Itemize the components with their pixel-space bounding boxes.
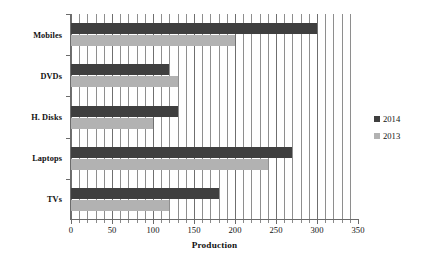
x-axis-tick: [112, 220, 113, 224]
category-label-h-disks: H. Disks: [0, 113, 62, 122]
gridline: [350, 14, 351, 220]
x-axis-minor-tick: [342, 220, 343, 223]
bar-tvs-2013: [71, 200, 169, 211]
x-tick-label-300: 300: [311, 225, 324, 235]
x-axis-minor-tick: [325, 220, 326, 223]
bar-mobiles-2013: [71, 35, 235, 46]
x-axis-tick: [71, 220, 72, 224]
y-axis-tick: [66, 55, 71, 56]
gridline: [325, 14, 326, 220]
x-axis-minor-tick: [202, 220, 203, 223]
gridline: [235, 14, 236, 220]
gridline: [333, 14, 334, 220]
gridline: [284, 14, 285, 220]
x-axis-tick: [194, 220, 195, 224]
bar-laptops-2014: [71, 147, 292, 158]
bar-chart: MobilesDVDsH. DisksLaptopsTVs 0501001502…: [0, 0, 432, 264]
x-axis-tick: [358, 220, 359, 224]
x-axis-title: Production: [71, 240, 358, 250]
bar-h-disks-2014: [71, 106, 178, 117]
gridline: [276, 14, 277, 220]
x-tick-label-350: 350: [352, 225, 365, 235]
gridline: [317, 14, 318, 220]
x-axis-minor-tick: [301, 220, 302, 223]
x-axis-minor-tick: [79, 220, 80, 223]
bar-h-disks-2013: [71, 118, 153, 129]
gridline: [292, 14, 293, 220]
x-axis-minor-tick: [178, 220, 179, 223]
x-axis-minor-tick: [104, 220, 105, 223]
gridline: [342, 14, 343, 220]
x-tick-label-50: 50: [108, 225, 117, 235]
x-tick-label-0: 0: [69, 225, 73, 235]
x-axis-minor-tick: [260, 220, 261, 223]
bar-mobiles-2014: [71, 23, 317, 34]
x-axis-minor-tick: [186, 220, 187, 223]
gridline: [268, 14, 269, 220]
x-axis-minor-tick: [251, 220, 252, 223]
x-axis-minor-tick: [243, 220, 244, 223]
legend-item-2014[interactable]: 2014: [374, 112, 400, 126]
x-tick-label-250: 250: [270, 225, 283, 235]
x-axis-minor-tick: [219, 220, 220, 223]
x-axis-line: [70, 219, 359, 220]
legend-label-2014: 2014: [383, 114, 400, 124]
x-axis-minor-tick: [120, 220, 121, 223]
y-axis-tick: [66, 138, 71, 139]
x-tick-label-150: 150: [188, 225, 201, 235]
x-axis-tick: [317, 220, 318, 224]
x-axis-minor-tick: [145, 220, 146, 223]
y-axis-tick: [66, 96, 71, 97]
x-axis-minor-tick: [309, 220, 310, 223]
gridline: [243, 14, 244, 220]
x-axis-tick: [276, 220, 277, 224]
category-label-mobiles: Mobiles: [0, 30, 62, 39]
x-axis-minor-tick: [137, 220, 138, 223]
y-axis-tick: [66, 14, 71, 15]
bar-tvs-2014: [71, 188, 219, 199]
x-axis-minor-tick: [333, 220, 334, 223]
x-axis-minor-tick: [227, 220, 228, 223]
legend-item-2013[interactable]: 2013: [374, 129, 400, 143]
gridline: [251, 14, 252, 220]
bar-dvds-2014: [71, 64, 169, 75]
category-axis: MobilesDVDsH. DisksLaptopsTVs: [0, 14, 66, 220]
gridline: [309, 14, 310, 220]
chart-legend: 2014 2013: [374, 112, 400, 146]
x-axis-minor-tick: [87, 220, 88, 223]
y-axis-tick: [66, 179, 71, 180]
x-axis-minor-tick: [128, 220, 129, 223]
x-axis-minor-tick: [268, 220, 269, 223]
x-tick-label-200: 200: [229, 225, 242, 235]
x-axis-tick: [235, 220, 236, 224]
x-axis-tick: [153, 220, 154, 224]
x-axis-minor-tick: [96, 220, 97, 223]
x-axis-minor-tick: [292, 220, 293, 223]
x-axis-minor-tick: [284, 220, 285, 223]
gridline: [260, 14, 261, 220]
category-label-laptops: Laptops: [0, 154, 62, 163]
x-axis-minor-tick: [161, 220, 162, 223]
square-marker-dark-icon: [374, 116, 380, 122]
x-axis-minor-tick: [350, 220, 351, 223]
legend-label-2013: 2013: [383, 131, 400, 141]
bar-dvds-2013: [71, 76, 178, 87]
x-axis-minor-tick: [169, 220, 170, 223]
square-marker-light-icon: [374, 133, 380, 139]
category-label-tvs: TVs: [0, 195, 62, 204]
category-label-dvds: DVDs: [0, 71, 62, 80]
x-axis-minor-tick: [210, 220, 211, 223]
bar-laptops-2013: [71, 159, 268, 170]
x-tick-label-100: 100: [147, 225, 160, 235]
gridline: [301, 14, 302, 220]
